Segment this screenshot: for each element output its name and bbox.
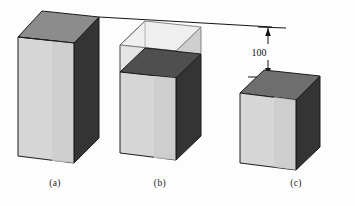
block-b bbox=[120, 21, 201, 160]
block-a bbox=[18, 11, 99, 163]
figure-root: 100 (a) (b) (c) bbox=[0, 0, 355, 206]
caption-b: (b) bbox=[154, 178, 166, 189]
isometric-blocks-figure: 100 (a) (b) (c) bbox=[0, 0, 355, 206]
block-b-front-shade bbox=[154, 76, 176, 160]
caption-c: (c) bbox=[290, 178, 302, 189]
block-c bbox=[240, 70, 320, 170]
block-c-front-shade bbox=[274, 97, 296, 170]
caption-a: (a) bbox=[49, 178, 61, 189]
dimension-value-label: 100 bbox=[252, 47, 267, 58]
block-a-front-shade bbox=[52, 41, 74, 163]
